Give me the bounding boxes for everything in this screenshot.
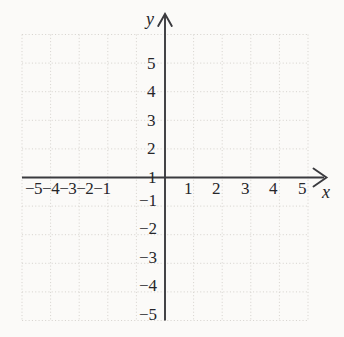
x-tick-label-2: 2 <box>212 180 221 197</box>
x-axis-label: x <box>322 183 330 201</box>
y-tick-label-5: 5 <box>147 55 156 72</box>
x-tick-label-5: 5 <box>298 180 307 197</box>
coordinate-plane-svg <box>0 0 344 337</box>
y-tick-label-neg-1: −1 <box>139 192 157 209</box>
x-tick-label-3: 3 <box>241 180 250 197</box>
y-tick-label-1: 1 <box>148 169 157 186</box>
x-negative-tick-labels: −5−4−3−2−1 <box>25 180 110 197</box>
y-tick-label-neg-5: −5 <box>139 306 157 323</box>
x-tick-label-4: 4 <box>269 180 278 197</box>
y-tick-label-neg-2: −2 <box>139 220 157 237</box>
x-tick-label-1: 1 <box>184 180 193 197</box>
y-tick-label-4: 4 <box>147 83 156 100</box>
y-tick-label-2: 2 <box>147 140 156 157</box>
coordinate-plane-figure: y x 5 4 3 2 1 −1 −2 −3 −4 −5 −5−4−3−2−1 … <box>0 0 344 337</box>
y-tick-label-3: 3 <box>147 112 156 129</box>
y-tick-label-neg-3: −3 <box>139 249 157 266</box>
y-axis-label: y <box>146 10 154 28</box>
y-tick-label-neg-4: −4 <box>139 277 157 294</box>
